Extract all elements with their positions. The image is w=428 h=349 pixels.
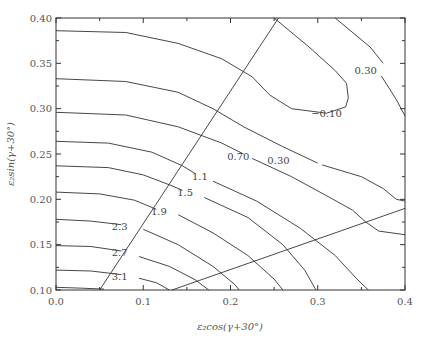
contour-line-0_70b	[252, 159, 405, 235]
boundary-lines	[100, 18, 405, 290]
contour-label: 1.1	[192, 171, 208, 182]
contour-line-2_7b	[139, 257, 209, 291]
contour-line-3_5	[56, 287, 104, 289]
x-tick-label: 0.2	[223, 296, 239, 307]
y-tick-label: 0.30	[30, 103, 52, 114]
contour-line-0_30d	[381, 76, 405, 116]
contour-line-1_1b	[213, 181, 368, 290]
contour-label: 2.3	[112, 221, 128, 232]
contour-label: 0.30	[267, 155, 289, 166]
y-axis-label: ε₂sin(γ+30°)	[5, 122, 16, 186]
contour-line-_0_10	[56, 31, 327, 114]
contour-labels: −0.100.300.300.701.11.51.92.32.73.1	[112, 65, 377, 282]
contour-line-0_30c	[335, 18, 383, 63]
x-tick-label: 0.4	[397, 296, 413, 307]
y-axis-ticks: 0.100.150.200.250.300.350.40	[30, 13, 405, 296]
contour-label: 3.1	[112, 271, 128, 282]
y-tick-label: 0.40	[30, 13, 52, 24]
y-tick-label: 0.25	[30, 149, 52, 160]
contour-line-0_30	[56, 79, 318, 163]
contour-line-0_30b	[322, 165, 405, 201]
contour-label: 0.30	[355, 65, 377, 76]
contour-line-1_5b	[204, 198, 316, 291]
contour-line-2_3b	[143, 229, 239, 290]
contour-chart: −0.100.300.300.701.11.51.92.32.73.1 0.00…	[0, 0, 428, 349]
x-tick-label: 0.1	[135, 296, 151, 307]
x-tick-label: 0.0	[48, 296, 64, 307]
contour-line-1_5	[56, 166, 183, 191]
contour-line-_0_10b	[274, 18, 348, 113]
contour-label: 0.70	[227, 151, 249, 162]
contour-line-1_9	[56, 192, 156, 209]
contour-label: 2.7	[112, 247, 128, 258]
contour-label: 1.5	[177, 187, 193, 198]
contour-line-1_1	[56, 141, 196, 174]
y-tick-label: 0.35	[30, 58, 52, 69]
y-tick-label: 0.20	[30, 194, 52, 205]
y-tick-label: 0.10	[30, 285, 52, 296]
x-axis-ticks: 0.00.10.20.30.4	[48, 18, 413, 307]
y-tick-label: 0.15	[30, 239, 52, 250]
contour-label: −0.10	[311, 108, 342, 119]
x-tick-label: 0.3	[310, 296, 326, 307]
x-axis-label: ε₂cos(γ+30°)	[197, 321, 263, 332]
contour-line-0_70	[56, 112, 244, 154]
contour-label: 1.9	[151, 206, 167, 217]
